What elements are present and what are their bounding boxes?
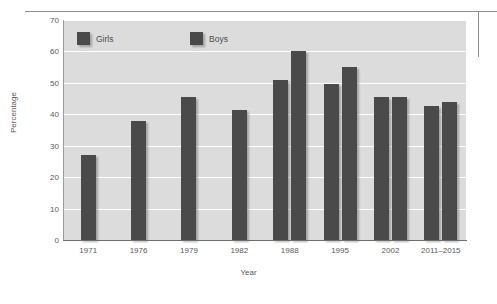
y-tick-label: 40: [35, 110, 59, 119]
y-tick-label: 70: [35, 16, 59, 25]
plot-area: GirlsBoys: [63, 20, 466, 240]
bar-girls-1988: [273, 80, 288, 240]
bars-layer: [63, 20, 466, 240]
bar-girls-2002: [374, 97, 389, 240]
legend-item-boys: Boys: [190, 32, 228, 45]
legend-item-girls: Girls: [77, 32, 113, 45]
x-tick-label: 1971: [79, 246, 97, 255]
x-tick-label: 1979: [180, 246, 198, 255]
chart-root: Percentage 010203040506070 GirlsBoys 197…: [0, 0, 497, 304]
bar-girls-1976: [131, 121, 146, 240]
bar-boys-1995: [342, 67, 357, 240]
x-tick-label: 1982: [230, 246, 248, 255]
y-tick-label: 20: [35, 173, 59, 182]
top-divider-rule: [25, 11, 497, 12]
x-tick-label: 1995: [331, 246, 349, 255]
x-tick-label: 2002: [382, 246, 400, 255]
x-axis-tick-labels: 19711976197919821988199520022011–2015: [63, 246, 466, 260]
bar-girls-1971: [81, 155, 96, 240]
y-tick-label: 50: [35, 78, 59, 87]
x-tick-label: 1988: [281, 246, 299, 255]
y-axis-line: [63, 20, 64, 241]
y-tick-label: 0: [35, 236, 59, 245]
legend-swatch-boys: [190, 32, 203, 45]
legend-label-boys: Boys: [209, 34, 228, 44]
y-axis-tick-labels: 010203040506070: [31, 20, 59, 240]
bar-girls-2011–2015: [424, 106, 439, 240]
right-divider-rule: [478, 12, 479, 57]
x-tick-label: 2011–2015: [421, 246, 460, 255]
bar-boys-2011–2015: [442, 102, 457, 240]
y-axis-title: Percentage: [9, 78, 18, 148]
bar-girls-1979: [181, 97, 196, 240]
x-axis-title: Year: [0, 268, 497, 277]
bar-girls-1995: [324, 84, 339, 240]
bar-girls-1982: [232, 110, 247, 240]
y-tick-label: 60: [35, 47, 59, 56]
y-tick-label: 30: [35, 141, 59, 150]
bar-boys-1988: [291, 51, 306, 240]
y-tick-label: 10: [35, 204, 59, 213]
x-axis-line: [63, 240, 467, 241]
bar-boys-2002: [392, 97, 407, 240]
legend-swatch-girls: [77, 32, 90, 45]
x-tick-label: 1976: [130, 246, 148, 255]
legend-label-girls: Girls: [96, 34, 113, 44]
